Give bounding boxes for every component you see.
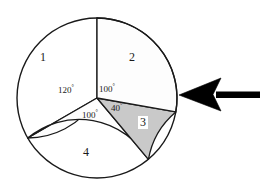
angle-label-100-left: 100°: [82, 110, 98, 120]
spinner-diagram: [0, 0, 262, 188]
sector-label-4: 4: [83, 145, 89, 160]
sector-label-2: 2: [129, 50, 135, 65]
pie-slice-2: [97, 18, 177, 112]
arrow-shaft: [216, 92, 260, 99]
angle-label-100-top: 100°: [99, 84, 115, 94]
arrow-head: [179, 78, 221, 111]
sector-label-3: 3: [138, 116, 148, 129]
sector-label-1: 1: [40, 50, 46, 65]
angle-label-40: 40°: [111, 103, 122, 113]
angle-label-120: 120°: [58, 85, 74, 95]
pointer-arrow: [179, 78, 260, 111]
spinner-figure: 120° 100° 40° 100° 1 2 3 4: [0, 0, 262, 188]
